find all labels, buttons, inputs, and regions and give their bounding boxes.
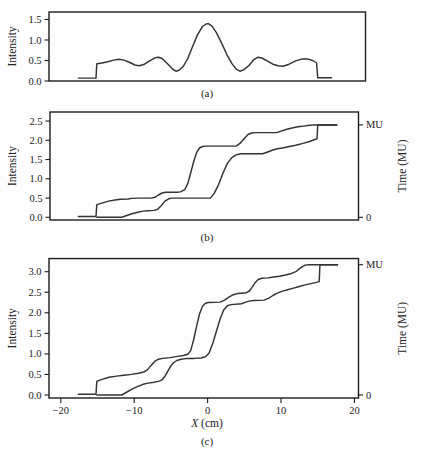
plot-b-caption: (b) bbox=[201, 231, 214, 244]
plot-c-caption: (c) bbox=[201, 435, 214, 448]
x-axis-tick-label: −10 bbox=[126, 405, 142, 416]
x-axis-tick-label: 20 bbox=[349, 405, 360, 416]
plot-a-ytick-label: 0.5 bbox=[28, 55, 41, 66]
plot-b-frame bbox=[50, 112, 359, 220]
plot-c-ytick-label: 0.5 bbox=[28, 369, 41, 380]
plot-c-ytick-label: 3.0 bbox=[28, 266, 41, 277]
x-axis-tick-label: −20 bbox=[53, 405, 69, 416]
figure-page: 0.00.51.01.5Intensity(a)0.00.51.01.52.02… bbox=[0, 0, 421, 459]
plot-a-ytick-label: 0.0 bbox=[28, 76, 41, 87]
leaf-trajectory-figure: 0.00.51.01.5Intensity(a)0.00.51.01.52.02… bbox=[0, 0, 421, 459]
plot-c-ytick-label: 1.5 bbox=[28, 328, 41, 339]
plot-c-ytick-label: 1.0 bbox=[28, 348, 41, 359]
x-axis-title: X (cm) bbox=[190, 417, 223, 430]
plot-c-right-ylabel: Time (MU) bbox=[396, 302, 409, 355]
plot-b-right-ylabel: Time (MU) bbox=[396, 139, 409, 192]
plot-b-right-tick-label: MU bbox=[366, 119, 383, 130]
plot-a-caption: (a) bbox=[201, 87, 214, 100]
plot-b-ytick-label: 2.5 bbox=[29, 116, 42, 127]
plot-b-ytick-label: 1.5 bbox=[29, 154, 42, 165]
plot-c-right-tick-label: MU bbox=[366, 259, 383, 270]
plot-b-ylabel: Intensity bbox=[6, 146, 19, 186]
plot-a-ytick-label: 1.0 bbox=[28, 35, 41, 46]
x-axis-tick-label: 0 bbox=[205, 405, 210, 416]
plot-a-ytick-label: 1.5 bbox=[28, 14, 41, 25]
x-axis-tick-label: 10 bbox=[276, 405, 287, 416]
plot-b-trailing-leaf-trajectory-curve bbox=[97, 125, 337, 217]
plot-a-ylabel: Intensity bbox=[6, 26, 19, 66]
plot-a-intensity-profile-curve bbox=[78, 24, 331, 79]
plot-b-ytick-label: 0.0 bbox=[29, 212, 42, 223]
plot-c-ytick-label: 2.0 bbox=[28, 307, 41, 318]
plot-b-leading-leaf-trajectory-curve bbox=[78, 125, 336, 217]
plot-c-right-tick-label: 0 bbox=[366, 390, 371, 401]
plot-b-ytick-label: 2.0 bbox=[29, 135, 42, 146]
plot-c-ylabel: Intensity bbox=[6, 308, 19, 348]
plot-c-trailing-leaf-trajectory-curve bbox=[97, 265, 338, 395]
plot-b-ytick-label: 0.5 bbox=[29, 193, 42, 204]
plot-c-leading-leaf-trajectory-curve bbox=[78, 265, 337, 395]
plot-b-right-tick-label: 0 bbox=[366, 212, 371, 223]
plot-b-ytick-label: 1.0 bbox=[29, 173, 42, 184]
plot-c-ytick-label: 2.5 bbox=[28, 287, 41, 298]
plot-c-frame bbox=[49, 259, 359, 398]
plot-c-ytick-label: 0.0 bbox=[28, 390, 41, 401]
